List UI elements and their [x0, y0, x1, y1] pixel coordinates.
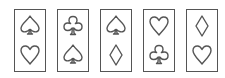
- card-1[interactable]: [14, 9, 46, 72]
- club-icon: [147, 43, 171, 67]
- diamond-icon: [104, 43, 128, 67]
- heart-icon: [190, 43, 214, 67]
- spade-icon: [61, 43, 85, 67]
- club-icon: [61, 14, 85, 38]
- diamond-icon: [190, 14, 214, 38]
- card-5[interactable]: [186, 9, 218, 72]
- card-2[interactable]: [57, 9, 89, 72]
- heart-icon: [18, 43, 42, 67]
- card-3[interactable]: [100, 9, 132, 72]
- heart-icon: [147, 14, 171, 38]
- spade-icon: [104, 14, 128, 38]
- card-4[interactable]: [143, 9, 175, 72]
- spade-icon: [18, 14, 42, 38]
